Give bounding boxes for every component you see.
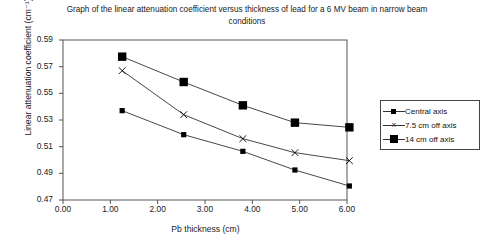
- x-axis-tick-label: 5.00: [280, 205, 320, 214]
- y-axis-tick-label: 0.55: [19, 88, 53, 97]
- x-axis-tick-label: 1.00: [90, 205, 130, 214]
- y-axis-tick-label: 0.53: [19, 115, 53, 124]
- series-line-1: [122, 71, 349, 161]
- legend-label: 14 cm off axis: [405, 135, 454, 144]
- data-point-marker: [239, 135, 246, 142]
- x-axis-tick-label: 4.00: [232, 205, 272, 214]
- legend-item-central-axis: Central axis: [383, 104, 476, 118]
- y-axis-tick-label: 0.57: [19, 62, 53, 71]
- data-point-marker: [120, 108, 125, 113]
- series-line-0: [122, 111, 349, 186]
- data-point-marker: [292, 167, 297, 172]
- x-axis-tick-label: 6.00: [327, 205, 367, 214]
- legend-marker-small-square-icon: [383, 105, 405, 117]
- legend-item-14-cm-off-axis: 14 cm off axis: [383, 132, 476, 146]
- data-point-marker: [291, 118, 299, 126]
- chart-container: Graph of the linear attenuation coeffici…: [0, 0, 490, 249]
- legend-marker-large-square-icon: [383, 133, 405, 145]
- legend-item-7-5-cm-off-axis: × 7.5 cm off axis: [383, 118, 476, 132]
- plot-frame: [63, 40, 347, 200]
- y-axis-tick-label: 0.59: [19, 35, 53, 44]
- legend-marker-cross-icon: ×: [383, 119, 405, 131]
- data-point-marker: [240, 149, 245, 154]
- data-point-marker: [239, 101, 247, 109]
- y-axis-tick-label: 0.47: [19, 195, 53, 204]
- y-axis-tick-label: 0.49: [19, 168, 53, 177]
- data-point-marker: [345, 123, 353, 131]
- legend-label: Central axis: [405, 107, 447, 116]
- data-point-marker: [180, 111, 187, 118]
- series-line-2: [122, 57, 349, 128]
- x-axis-tick-label: 2.00: [138, 205, 178, 214]
- data-point-marker: [118, 52, 126, 60]
- data-point-marker: [119, 67, 126, 74]
- data-point-marker: [181, 132, 186, 137]
- x-axis-tick-label: 3.00: [185, 205, 225, 214]
- data-point-marker: [180, 78, 188, 86]
- data-point-marker: [347, 183, 352, 188]
- y-axis-tick-label: 0.51: [19, 142, 53, 151]
- x-axis-tick-label: 0.00: [43, 205, 83, 214]
- chart-legend: Central axis × 7.5 cm off axis 14 cm off…: [380, 100, 480, 150]
- legend-label: 7.5 cm off axis: [405, 121, 456, 130]
